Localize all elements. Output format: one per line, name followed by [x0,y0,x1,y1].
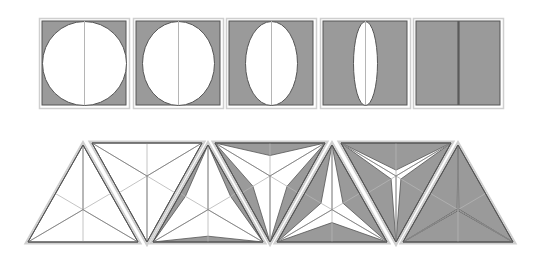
square-figure-5 [414,19,504,109]
square-figure-2 [134,19,224,109]
square-figure-4 [321,19,411,109]
square-figure-1 [40,19,130,109]
square-figure-3 [227,19,317,109]
squares-row [40,19,504,109]
triangles-row [28,143,513,242]
diagram-canvas [0,0,538,262]
diagram-svg [0,0,538,262]
